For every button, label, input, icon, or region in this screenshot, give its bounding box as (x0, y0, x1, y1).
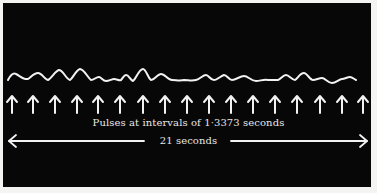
up-arrow-icon (226, 96, 236, 113)
up-arrow-icon (7, 96, 17, 113)
pulsar-signal-diagram (0, 0, 377, 193)
up-arrow-icon (28, 96, 38, 113)
up-arrow-icon (50, 96, 60, 113)
up-arrow-icon (358, 96, 368, 113)
up-arrow-icon (138, 96, 148, 113)
up-arrow-icon (160, 96, 170, 113)
up-arrow-icon (292, 96, 302, 113)
pulse-interval-caption: Pulses at intervals of 1·3373 seconds (0, 117, 377, 128)
up-arrow-icon (182, 96, 192, 113)
signal-trace (8, 69, 356, 83)
up-arrow-icon (337, 96, 347, 113)
pulse-arrows (7, 96, 368, 113)
up-arrow-icon (115, 96, 125, 113)
up-arrow-icon (270, 96, 280, 113)
up-arrow-icon (315, 96, 325, 113)
up-arrow-icon (204, 96, 214, 113)
duration-caption-wrap: 21 seconds (0, 135, 377, 146)
up-arrow-icon (93, 96, 103, 113)
up-arrow-icon (72, 96, 82, 113)
up-arrow-icon (248, 96, 258, 113)
duration-caption: 21 seconds (150, 135, 228, 146)
